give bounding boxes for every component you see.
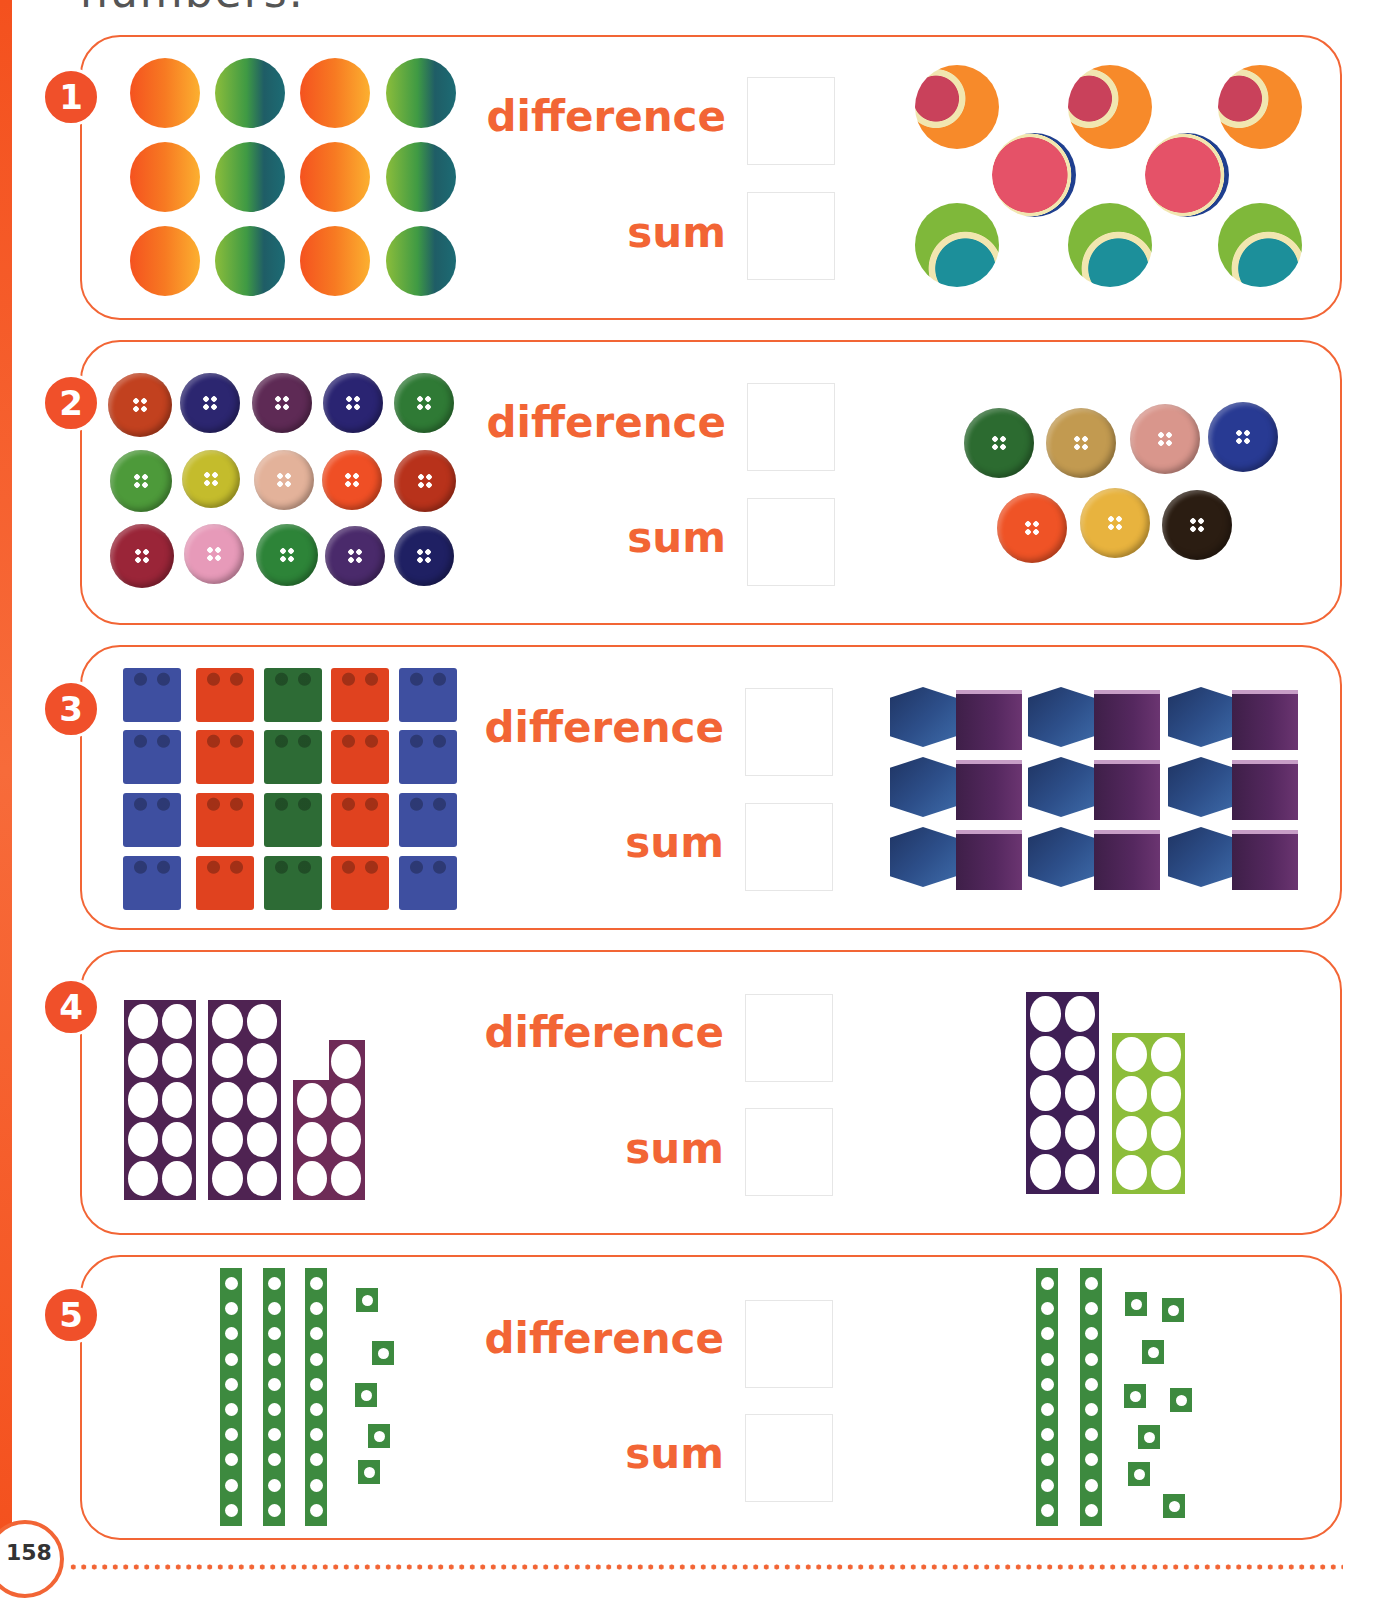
brick-icon	[196, 730, 254, 784]
cube-icon	[1028, 687, 1094, 747]
brick-icon	[196, 793, 254, 847]
brick-icon	[399, 856, 457, 910]
button-icon	[110, 524, 174, 588]
button-icon	[256, 524, 318, 586]
difference-answer-box[interactable]	[745, 994, 833, 1082]
unit-cube-icon	[1125, 1292, 1147, 1316]
brick-icon	[264, 793, 322, 847]
difference-answer-box[interactable]	[745, 688, 833, 776]
question-number-3: 3	[42, 680, 100, 738]
difference-answer-box[interactable]	[745, 1300, 833, 1388]
button-icon	[1162, 490, 1232, 560]
sum-answer-box[interactable]	[745, 1108, 833, 1196]
button-icon	[394, 526, 454, 586]
cube-icon	[890, 687, 956, 747]
button-icon	[1208, 402, 1278, 472]
button-icon	[322, 450, 382, 510]
ten-rod-icon	[1036, 1268, 1058, 1526]
ball-icon	[130, 142, 200, 212]
tennis-ball-icon	[915, 203, 999, 287]
brick-icon	[196, 856, 254, 910]
brick-icon	[331, 668, 389, 722]
button-icon	[394, 373, 454, 433]
sum-label: sum	[484, 818, 724, 867]
brick-icon	[399, 668, 457, 722]
button-icon	[180, 373, 240, 433]
cube-icon	[1168, 687, 1234, 747]
sum-label: sum	[486, 208, 726, 257]
page-side-strip	[0, 0, 12, 1540]
difference-label: difference	[484, 1314, 724, 1363]
unit-cube-icon	[358, 1460, 380, 1484]
sum-answer-box[interactable]	[747, 192, 835, 280]
tennis-ball-icon	[1068, 65, 1152, 149]
sum-label: sum	[484, 1124, 724, 1173]
footer-dotted-line	[68, 1564, 1343, 1570]
cube-icon	[1232, 760, 1298, 820]
tennis-ball-icon	[1068, 203, 1152, 287]
ball-icon	[215, 58, 285, 128]
tennis-ball-icon	[915, 65, 999, 149]
ball-icon	[130, 226, 200, 296]
difference-label: difference	[484, 703, 724, 752]
cube-icon	[890, 757, 956, 817]
sum-answer-box[interactable]	[745, 1414, 833, 1502]
sum-answer-box[interactable]	[747, 498, 835, 586]
difference-answer-box[interactable]	[747, 383, 835, 471]
unit-cube-icon	[1163, 1494, 1185, 1518]
question-number-5: 5	[42, 1286, 100, 1344]
brick-icon	[123, 668, 181, 722]
button-icon	[184, 524, 244, 584]
eight-shape-icon	[1112, 1033, 1185, 1194]
unit-cube-icon	[1124, 1384, 1146, 1408]
brick-icon	[123, 856, 181, 910]
tennis-ball-icon	[1145, 133, 1229, 217]
button-icon	[108, 373, 172, 437]
unit-cube-icon	[1142, 1340, 1164, 1364]
cube-icon	[1094, 830, 1160, 890]
ten-rod-icon	[263, 1268, 285, 1526]
page-number: 158	[6, 1540, 52, 1565]
brick-icon	[399, 730, 457, 784]
brick-icon	[123, 793, 181, 847]
difference-label: difference	[486, 398, 726, 447]
button-icon	[325, 526, 385, 586]
sum-answer-box[interactable]	[745, 803, 833, 891]
tennis-ball-icon	[1218, 65, 1302, 149]
unit-cube-icon	[355, 1383, 377, 1407]
difference-answer-box[interactable]	[747, 77, 835, 165]
ten-shape-icon	[124, 1000, 196, 1200]
difference-label: difference	[486, 92, 726, 141]
brick-icon	[331, 730, 389, 784]
ten-rod-icon	[220, 1268, 242, 1526]
ten-shape-icon	[208, 1000, 281, 1200]
question-number-2: 2	[42, 374, 100, 432]
button-icon	[182, 450, 240, 508]
question-number-4: 4	[42, 978, 100, 1036]
brick-icon	[264, 730, 322, 784]
cube-icon	[890, 827, 956, 887]
ten-shape-icon	[1026, 992, 1099, 1194]
button-icon	[323, 373, 383, 433]
ball-icon	[386, 58, 456, 128]
cube-icon	[956, 760, 1022, 820]
cube-icon	[1094, 760, 1160, 820]
cube-icon	[956, 830, 1022, 890]
ten-rod-icon	[1080, 1268, 1102, 1526]
cube-icon	[1168, 757, 1234, 817]
sum-label: sum	[486, 513, 726, 562]
brick-icon	[264, 856, 322, 910]
unit-cube-icon	[1170, 1388, 1192, 1412]
unit-cube-icon	[1162, 1298, 1184, 1322]
button-icon	[252, 373, 312, 433]
ball-icon	[300, 142, 370, 212]
tennis-ball-icon	[992, 133, 1076, 217]
cube-icon	[1028, 827, 1094, 887]
unit-cube-icon	[356, 1288, 378, 1312]
cube-icon	[1232, 690, 1298, 750]
button-icon	[1046, 408, 1116, 478]
cube-icon	[1094, 690, 1160, 750]
brick-icon	[123, 730, 181, 784]
ball-icon	[300, 226, 370, 296]
unit-cube-icon	[368, 1424, 390, 1448]
